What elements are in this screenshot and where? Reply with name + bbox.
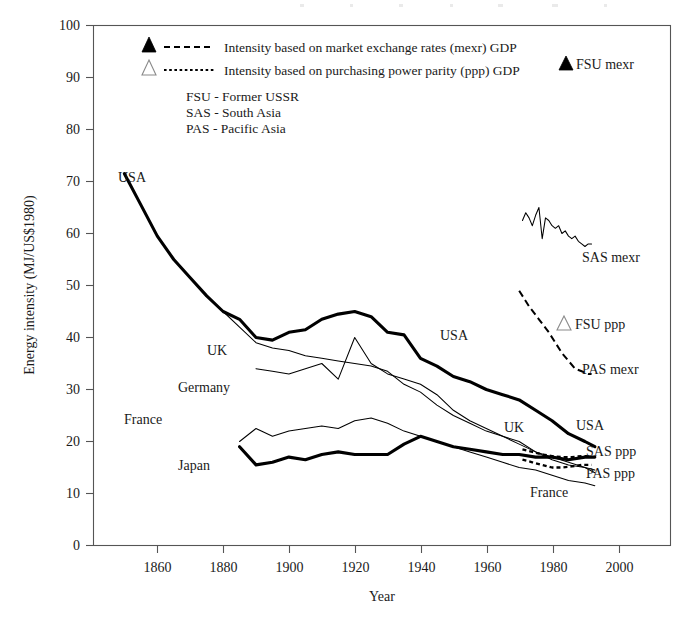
fsu-mexr-label: FSU mexr [576,57,634,72]
series-line-pas-mexr [519,291,591,374]
y-tick-label: 60 [66,226,80,241]
series-label-germany: Germany [178,380,230,395]
x-tick-label: 1880 [210,560,238,575]
series-label-uk: UK [207,343,227,358]
series-line-france-mexr [240,418,595,486]
series-line-usa-mexr [124,174,594,447]
filled-triangle-icon [142,37,156,52]
legend-entry-mexr-label: Intensity based on market exchange rates… [224,40,517,55]
series-label-japan: Japan [178,458,210,473]
hollow-triangle-icon [557,316,571,330]
x-tick-label: 1860 [144,560,172,575]
abbrev-key-line: SAS - South Asia [186,105,281,120]
series-label-uk: UK [504,420,524,435]
x-tick-label: 2000 [606,560,634,575]
x-axis-tick-labels: 1860 1880 1900 1920 1940 1960 1980 2000 [144,560,634,575]
x-tick-label: 1980 [540,560,568,575]
series-label-layer: USAUKGermanyFranceJapanUSAUKUSAFranceSAS… [118,170,640,500]
fsu-ppp-marker-group: FSU ppp [557,316,625,332]
series-label-sas-mexr: SAS mexr [582,250,640,265]
y-tick-label: 90 [66,70,80,85]
hollow-triangle-icon [142,60,156,75]
energy-intensity-figure: 100 90 80 70 60 50 40 30 20 10 0 Energy … [0,0,689,620]
y-tick-label: 40 [66,330,80,345]
y-tick-label: 100 [59,18,80,33]
series-label-pas-mexr: PAS mexr [582,362,639,377]
legend: Intensity based on market exchange rates… [142,37,520,78]
y-axis-ticks [86,26,94,546]
x-tick-label: 1900 [276,560,304,575]
series-label-france: France [530,485,568,500]
series-label-pas-ppp: PAS ppp [586,466,635,481]
x-tick-label: 1920 [342,560,370,575]
y-tick-label: 0 [73,538,80,553]
filled-triangle-icon [559,56,573,70]
y-tick-label: 50 [66,278,80,293]
series-line-germany-mexr [256,338,595,473]
abbreviation-key: FSU - Former USSR SAS - South Asia PAS -… [186,89,299,136]
series-label-usa: USA [118,170,147,185]
y-tick-label: 80 [66,122,80,137]
legend-entry-ppp-label: Intensity based on purchasing power pari… [224,63,520,78]
y-axis-title: Energy intensity (MJ/US$1980) [22,195,38,375]
series-line-japan-mexr [240,436,595,465]
abbrev-key-line: PAS - Pacific Asia [186,121,286,136]
x-axis-title: Year [369,589,395,604]
chart-canvas: 100 90 80 70 60 50 40 30 20 10 0 Energy … [0,0,689,620]
y-axis-tick-labels: 100 90 80 70 60 50 40 30 20 10 0 [59,18,80,553]
fsu-ppp-label: FSU ppp [575,317,625,332]
series-label-france: France [124,412,162,427]
series-label-usa: USA [440,328,469,343]
x-axis-ticks [158,546,620,554]
y-tick-label: 30 [66,382,80,397]
series-line-uk-mexr [223,312,595,471]
y-tick-label: 70 [66,174,80,189]
x-tick-label: 1960 [474,560,502,575]
data-series-layer [124,174,594,486]
fsu-mexr-marker-group: FSU mexr [559,56,634,72]
y-tick-label: 20 [66,434,80,449]
abbrev-key-line: FSU - Former USSR [186,89,299,104]
series-label-usa: USA [576,418,605,433]
y-tick-label: 10 [66,486,80,501]
series-label-sas-ppp: SAS ppp [586,444,636,459]
x-tick-label: 1940 [408,560,436,575]
series-line-sas-mexr [522,208,591,247]
